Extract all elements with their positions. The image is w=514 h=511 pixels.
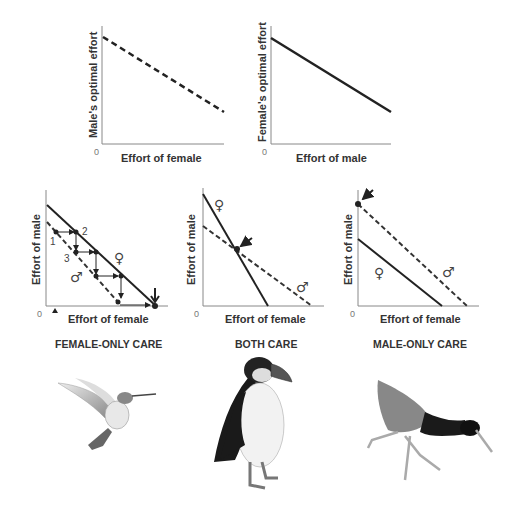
female-line [358, 239, 442, 306]
caption-both-care: BOTH CARE [235, 338, 297, 350]
origin-label: 0 [262, 147, 267, 157]
x-axis-label: Effort of female [121, 152, 202, 164]
equilibrium-point [355, 201, 361, 207]
male-reaction-line [103, 37, 224, 112]
origin-label: 0 [37, 309, 42, 319]
x-axis-label: Effort of female [380, 313, 461, 325]
equilibrium-arrow-icon [241, 238, 252, 246]
y-axis-label: Male's optimal effort [87, 31, 99, 138]
step-label-3: 3 [64, 253, 70, 264]
hummingbird-illustration [58, 378, 156, 450]
equilibrium-point [152, 303, 158, 309]
caption-male-only-care: MALE-ONLY CARE [373, 338, 467, 350]
panel-both-care: ♀ ♂ Effort of male Effort of female 0 BO… [185, 188, 324, 350]
y-axis-label: Effort of male [342, 214, 354, 285]
caption-female-only-care: FEMALE-ONLY CARE [55, 338, 162, 350]
x-axis-label: Effort of male [296, 152, 367, 164]
panel-male-only-care: ♀ ♂ Effort of male Effort of female 0 MA… [342, 190, 479, 350]
puffin-illustration [214, 357, 292, 488]
male-symbol: ♂ [442, 264, 455, 280]
equilibrium-point [234, 246, 240, 252]
equilibrium-arrow-icon [151, 288, 159, 302]
y-axis-label: Effort of male [185, 214, 197, 285]
step-label-1: 1 [50, 236, 56, 247]
male-symbol: ♂ [296, 279, 309, 295]
female-symbol: ♀ [214, 197, 224, 213]
start-marker-icon [52, 308, 58, 313]
parental-care-figure: Male's optimal effort Effort of female 0… [0, 0, 514, 511]
y-axis-label: Female's optimal effort [256, 22, 268, 142]
panel-female-only-care: 1 2 3 ♀ ♂ Effort of male Effort of femal… [30, 190, 168, 350]
male-symbol: ♂ [70, 269, 83, 285]
x-axis-label: Effort of female [225, 313, 306, 325]
origin-label: 0 [350, 309, 355, 319]
female-reaction-line [271, 38, 391, 112]
female-symbol: ♀ [374, 265, 384, 281]
male-line [358, 204, 467, 306]
panel-female-reaction: Female's optimal effort Effort of male 0 [256, 22, 391, 164]
y-axis-label: Effort of male [30, 214, 42, 285]
female-symbol: ♀ [114, 250, 124, 266]
equilibrium-arrow-icon [363, 190, 373, 199]
x-axis-label: Effort of female [68, 313, 149, 325]
step-label-2: 2 [82, 226, 88, 237]
jacana-illustration [368, 380, 492, 480]
origin-label: 0 [194, 309, 199, 319]
panel-male-reaction: Male's optimal effort Effort of female 0 [87, 26, 224, 164]
origin-label: 0 [94, 147, 99, 157]
